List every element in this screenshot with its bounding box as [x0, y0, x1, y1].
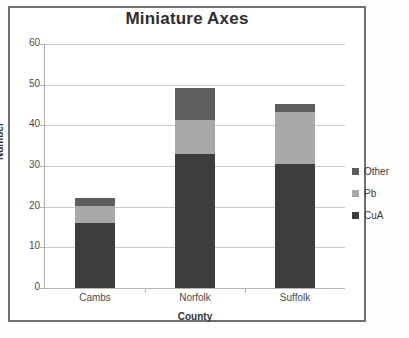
bar-segment-pb: [275, 112, 315, 164]
legend-swatch-icon: [352, 190, 359, 197]
y-tick-label: 40: [6, 118, 40, 129]
x-tick-mark: [245, 288, 246, 293]
y-tick-mark: [40, 288, 45, 289]
bar-segment-cua: [75, 223, 115, 288]
x-tick-label: Norfolk: [145, 292, 245, 303]
y-tick-label: 20: [6, 200, 40, 211]
x-tick-mark: [145, 288, 146, 293]
legend-swatch-icon: [352, 212, 359, 219]
x-axis-title: County: [45, 311, 345, 322]
bar-segment-other: [75, 198, 115, 206]
bar-segment-pb: [175, 120, 215, 154]
y-axis-tick-labels: 0102030405060: [0, 0, 40, 338]
chart-title: Miniature Axes: [8, 9, 366, 29]
bar-segment-other: [175, 88, 215, 121]
bar-segment-cua: [175, 154, 215, 288]
y-tick-label: 30: [6, 159, 40, 170]
y-tick-label: 60: [6, 37, 40, 48]
chart-figure: Miniature Axes Number 0102030405060 Camb…: [0, 0, 409, 338]
bar-segment-other: [275, 104, 315, 112]
legend-item-pb[interactable]: Pb: [352, 182, 408, 204]
bar-segment-cua: [275, 164, 315, 288]
legend-item-cua[interactable]: CuA: [352, 204, 408, 226]
x-tick-label: Suffolk: [245, 292, 345, 303]
y-tick-label: 10: [6, 240, 40, 251]
y-tick-label: 50: [6, 78, 40, 89]
gridline: [45, 288, 345, 289]
legend-item-label: Other: [364, 166, 389, 177]
legend-item-label: Pb: [364, 188, 376, 199]
bar-suffolk: [275, 104, 315, 288]
legend-swatch-icon: [352, 168, 359, 175]
bar-cambs: [75, 198, 115, 288]
legend-item-other[interactable]: Other: [352, 160, 408, 182]
bar-norfolk: [175, 88, 215, 288]
chart-legend: OtherPbCuA: [352, 160, 408, 226]
bar-segment-pb: [75, 206, 115, 223]
legend-item-label: CuA: [364, 210, 383, 221]
plot-area: [45, 44, 345, 288]
x-tick-label: Cambs: [45, 292, 145, 303]
y-tick-label: 0: [6, 281, 40, 292]
